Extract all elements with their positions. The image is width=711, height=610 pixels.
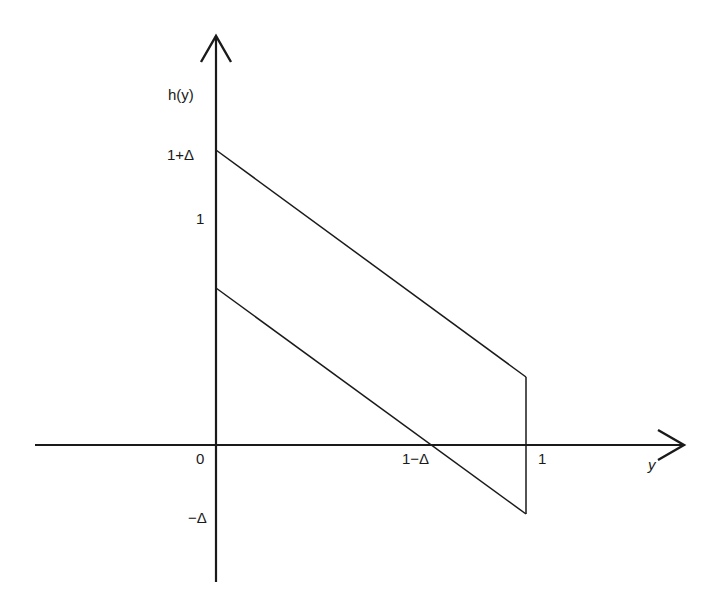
tick-label-one-x: 1 [538, 450, 546, 467]
tick-label-origin: 0 [196, 450, 204, 467]
tick-label-minus-delta: −Δ [188, 509, 207, 526]
y-axis-label: h(y) [168, 86, 194, 103]
tick-label-one-plus-delta: 1+Δ [167, 146, 194, 163]
x-axis-label: y [647, 456, 657, 473]
tick-label-one-y: 1 [196, 210, 204, 227]
tick-label-one-minus-delta: 1−Δ [402, 450, 429, 467]
diagram-canvas: h(y) 1+Δ 1 0 −Δ 1−Δ 1 y [0, 0, 711, 610]
upper-line [216, 150, 526, 377]
lower-line [216, 288, 526, 514]
